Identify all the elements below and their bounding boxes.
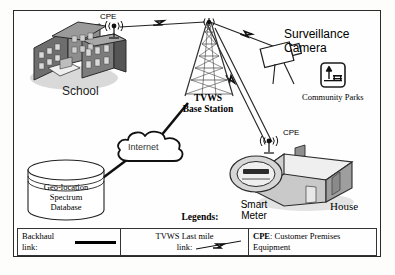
database-label: Geo-location Spectrum Database bbox=[28, 182, 104, 212]
base-station-label: TVWS Base Station bbox=[178, 93, 238, 114]
cpe-label-school: CPE bbox=[100, 12, 116, 21]
internet-label: Internet bbox=[128, 142, 159, 152]
diagram-canvas: School CPE bbox=[0, 0, 395, 275]
camera-label-line2: Camera bbox=[284, 41, 349, 55]
base-station-label-line2: Base Station bbox=[178, 104, 238, 115]
smart-meter-icon bbox=[228, 152, 284, 196]
legend-backhaul-label: Backhaul link: bbox=[22, 231, 71, 253]
cpe-antenna-icon-school bbox=[100, 19, 128, 41]
legend-cpe-term: CPE bbox=[253, 231, 270, 241]
legend-box: Backhaul link: TVWS Last mile link: CPE:… bbox=[17, 228, 377, 256]
legends-title: Legends: bbox=[160, 212, 240, 222]
cpe-label-house: CPE bbox=[283, 128, 299, 137]
base-station-label-line1: TVWS bbox=[178, 93, 238, 104]
community-parks-label: Community Parks bbox=[302, 92, 364, 102]
database-label-line1: Geo-location bbox=[28, 182, 104, 192]
legend-item-lastmile: TVWS Last mile link: bbox=[120, 229, 248, 255]
park-tree-bench-icon bbox=[320, 62, 346, 88]
lightning-bolt-icon-legend bbox=[195, 238, 243, 252]
tvws-tower-icon bbox=[175, 18, 243, 98]
house-label: House bbox=[330, 200, 358, 212]
camera-label: Surveillance Camera bbox=[284, 27, 349, 55]
smart-meter-label-line1: Smart bbox=[232, 199, 276, 210]
legend-item-backhaul: Backhaul link: bbox=[18, 229, 120, 255]
legend-item-cpe: CPE: Customer Premises Equipment bbox=[248, 229, 376, 255]
camera-label-line1: Surveillance bbox=[284, 27, 349, 41]
database-label-line3: Database bbox=[28, 202, 104, 212]
cpe-antenna-icon-house bbox=[255, 134, 283, 156]
solid-line-icon bbox=[75, 241, 116, 244]
school-label: School bbox=[62, 84, 99, 98]
database-label-line2: Spectrum bbox=[28, 192, 104, 202]
